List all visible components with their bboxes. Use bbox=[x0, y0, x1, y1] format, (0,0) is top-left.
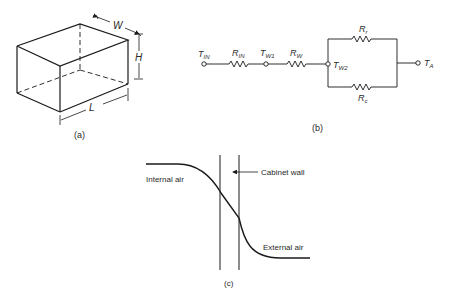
temperature-profile-diagram: Internal air Cabinet wall External air (… bbox=[146, 155, 310, 288]
label-r-w: RW bbox=[290, 48, 304, 59]
width-label: W bbox=[113, 20, 124, 31]
node-t-in bbox=[202, 62, 206, 66]
box-hidden-bottom-left-edge bbox=[17, 70, 80, 93]
resistor-r-w bbox=[287, 61, 306, 67]
caption-a: (a) bbox=[74, 130, 85, 140]
cabinet-box-diagram: W H L (a) bbox=[17, 15, 143, 140]
label-cabinet-wall: Cabinet wall bbox=[261, 168, 305, 177]
resistor-r-in bbox=[229, 61, 248, 67]
label-r-r: Rr bbox=[359, 24, 369, 35]
box-hidden-bottom-right-edge bbox=[80, 70, 128, 84]
label-t-w1: TW1 bbox=[260, 48, 275, 59]
thermal-resistance-circuit: TIN RIN TW1 RW TW2 Rr Rc TA (b) bbox=[198, 24, 434, 133]
node-t-w1 bbox=[264, 62, 268, 66]
caption-c: (c) bbox=[224, 279, 234, 288]
box-top-face bbox=[17, 24, 128, 66]
label-r-c: Rc bbox=[358, 93, 368, 104]
label-t-w2: TW2 bbox=[333, 60, 348, 71]
box-bottom-left-edge bbox=[17, 93, 60, 112]
node-t-w2 bbox=[326, 62, 330, 66]
width-dimension: W bbox=[96, 15, 141, 36]
length-dimension: L bbox=[60, 88, 128, 125]
label-internal-air: Internal air bbox=[146, 175, 184, 184]
node-t-a bbox=[416, 61, 420, 65]
resistor-r-r bbox=[352, 36, 371, 42]
label-t-a: TA bbox=[424, 58, 434, 69]
height-dimension: H bbox=[134, 34, 143, 79]
resistor-r-c bbox=[352, 84, 371, 90]
length-label: L bbox=[89, 102, 95, 113]
height-label: H bbox=[135, 52, 143, 63]
label-r-in: RIN bbox=[232, 48, 245, 59]
caption-b: (b) bbox=[312, 123, 323, 133]
label-t-in: TIN bbox=[198, 49, 210, 60]
label-external-air: External air bbox=[263, 243, 304, 252]
figure-canvas: W H L (a) bbox=[0, 0, 449, 300]
